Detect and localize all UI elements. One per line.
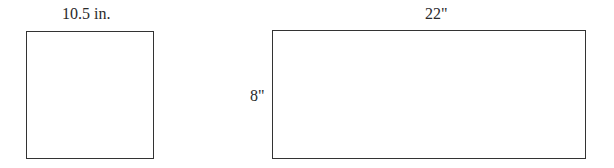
rectangle-width-label: 22" <box>425 6 448 22</box>
square-shape <box>26 31 154 159</box>
rectangle-height-label: 8" <box>250 88 265 104</box>
square-side-label: 10.5 in. <box>62 6 110 22</box>
rectangle-shape <box>272 30 586 159</box>
